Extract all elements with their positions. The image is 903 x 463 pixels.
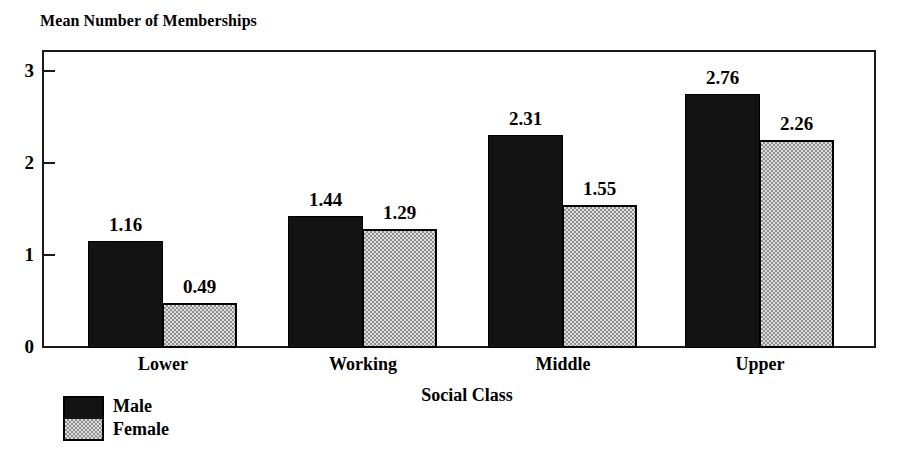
chart-figure: Mean Number of Memberships 0123 1.160.49…: [0, 0, 903, 463]
y-axis-title: Mean Number of Memberships: [40, 12, 257, 30]
bar-lower-female: [162, 303, 237, 348]
y-tick-label: 1: [8, 245, 34, 264]
legend-swatch-box: [63, 396, 104, 441]
legend-label-female: Female: [113, 418, 273, 441]
bar-value-middle-female: 1.55: [554, 179, 645, 198]
y-tick-label: 2: [8, 153, 34, 172]
legend-label-male: Male: [113, 395, 273, 418]
bar-value-middle-male: 2.31: [480, 109, 571, 128]
bar-upper-male: [685, 94, 760, 348]
bar-middle-female: [562, 205, 637, 348]
bar-middle-male: [488, 135, 563, 348]
legend-swatch-male: [65, 398, 102, 419]
legend: Male Female: [63, 396, 283, 444]
bar-lower-male: [88, 241, 163, 348]
y-tick-label: 0: [8, 337, 34, 356]
legend-swatch-female: [65, 419, 102, 440]
x-category-label-middle: Middle: [493, 355, 633, 373]
bar-working-female: [362, 229, 437, 348]
bar-value-lower-female: 0.49: [154, 277, 245, 296]
bars-layer: [44, 52, 874, 348]
bar-working-male: [288, 216, 363, 348]
x-category-label-upper: Upper: [690, 355, 830, 373]
x-category-label-lower: Lower: [93, 355, 233, 373]
x-category-label-working: Working: [293, 355, 433, 373]
bar-value-working-female: 1.29: [354, 203, 445, 222]
bar-value-lower-male: 1.16: [80, 215, 171, 234]
legend-label-list: Male Female: [113, 395, 273, 441]
bar-value-upper-female: 2.26: [751, 114, 842, 133]
x-axis-title: Social Class: [317, 386, 617, 404]
bar-upper-female: [759, 140, 834, 348]
bar-value-upper-male: 2.76: [677, 68, 768, 87]
y-tick-label: 3: [8, 61, 34, 80]
